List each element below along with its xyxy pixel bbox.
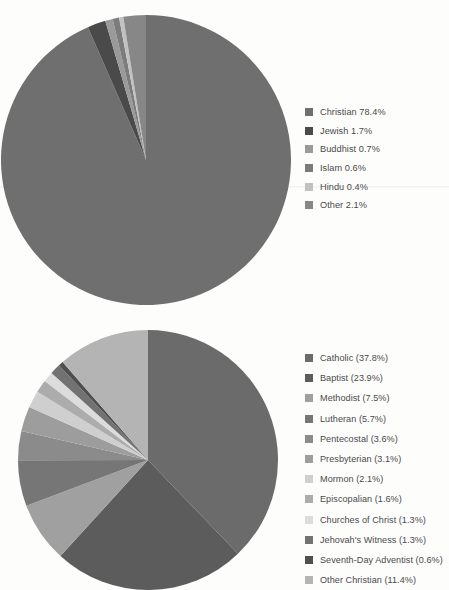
denomination-legend-item[interactable]: Methodist (7.5%) [305,388,443,408]
denomination-legend-label: Churches of Christ (1.3%) [320,515,426,525]
religion-pie-svg [0,0,300,318]
denomination-legend-label: Presbyterian (3.1%) [320,454,401,464]
denomination-legend-item[interactable]: Lutheran (5.7%) [305,409,443,429]
denomination-legend-label: Other Christian (11.4%) [320,575,416,585]
denomination-legend-swatch [305,415,313,423]
denomination-pie-svg [0,318,300,590]
religion-legend-item[interactable]: Other 2.1% [305,196,386,215]
religion-legend-item[interactable]: Christian 78.4% [305,103,386,122]
denomination-legend-swatch [305,435,313,443]
religion-legend-swatch [305,164,313,172]
denomination-legend-item[interactable]: Baptist (23.9%) [305,368,443,388]
religion-legend: Christian 78.4%Jewish 1.7%Buddhist 0.7%I… [305,103,386,215]
religion-legend-swatch [305,201,313,209]
denomination-legend-swatch [305,394,313,402]
religion-legend-item[interactable]: Hindu 0.4% [305,177,386,196]
religion-legend-label: Islam 0.6% [320,163,366,173]
religion-legend-swatch [305,127,313,135]
denomination-legend-item[interactable]: Mormon (2.1%) [305,469,443,489]
religion-legend-item[interactable]: Jewish 1.7% [305,122,386,141]
denomination-legend-swatch [305,374,313,382]
denomination-legend-label: Jehovah's Witness (1.3%) [320,535,426,545]
denomination-legend-swatch [305,556,313,564]
denomination-legend-label: Baptist (23.9%) [320,373,383,383]
denomination-legend-swatch [305,536,313,544]
denomination-legend-swatch [305,495,313,503]
religion-legend-item[interactable]: Buddhist 0.7% [305,140,386,159]
religion-legend-swatch [305,108,313,116]
denomination-legend-label: Seventh-Day Adventist (0.6%) [320,555,443,565]
religion-legend-label: Buddhist 0.7% [320,144,380,154]
denomination-legend-item[interactable]: Jehovah's Witness (1.3%) [305,530,443,550]
denomination-legend-label: Catholic (37.8%) [320,353,388,363]
denomination-legend-swatch [305,475,313,483]
denomination-legend-label: Mormon (2.1%) [320,474,383,484]
denomination-legend-swatch [305,576,313,584]
denomination-legend-item[interactable]: Presbyterian (3.1%) [305,449,443,469]
denomination-legend-label: Lutheran (5.7%) [320,414,386,424]
religion-legend-label: Christian 78.4% [320,107,386,117]
religion-pie-chart [0,0,300,318]
denomination-legend-item[interactable]: Churches of Christ (1.3%) [305,510,443,530]
denomination-legend-label: Episcopalian (1.6%) [320,494,402,504]
religion-legend-swatch [305,145,313,153]
denomination-legend-swatch [305,354,313,362]
denomination-pie-chart [0,318,300,590]
denomination-legend-label: Methodist (7.5%) [320,393,390,403]
denomination-legend: Catholic (37.8%)Baptist (23.9%)Methodist… [305,348,443,590]
denomination-legend-swatch [305,516,313,524]
denomination-legend-item[interactable]: Other Christian (11.4%) [305,570,443,590]
denomination-legend-label: Pentecostal (3.6%) [320,434,398,444]
denomination-legend-item[interactable]: Seventh-Day Adventist (0.6%) [305,550,443,570]
denomination-legend-item[interactable]: Episcopalian (1.6%) [305,489,443,509]
religion-legend-label: Jewish 1.7% [320,126,372,136]
religion-legend-swatch [305,183,313,191]
religion-legend-label: Hindu 0.4% [320,182,368,192]
religion-legend-item[interactable]: Islam 0.6% [305,159,386,178]
denomination-legend-item[interactable]: Catholic (37.8%) [305,348,443,368]
denomination-legend-swatch [305,455,313,463]
denomination-legend-item[interactable]: Pentecostal (3.6%) [305,429,443,449]
religion-legend-label: Other 2.1% [320,200,367,210]
